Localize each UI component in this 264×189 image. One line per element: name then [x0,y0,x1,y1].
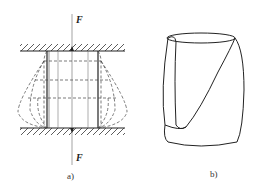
diagram-canvas [0,0,264,189]
fracture-surface [168,37,235,129]
figure-b-shear-fracture [163,33,244,146]
deformed-outlines [18,51,127,128]
caption-a: a) [67,171,74,181]
caption-b: b) [210,169,218,179]
force-label-bottom: F [76,152,83,163]
figure-a-compression [18,14,127,165]
force-label-top: F [76,14,83,25]
top-ellipse [167,33,235,43]
body-outline [164,38,244,146]
